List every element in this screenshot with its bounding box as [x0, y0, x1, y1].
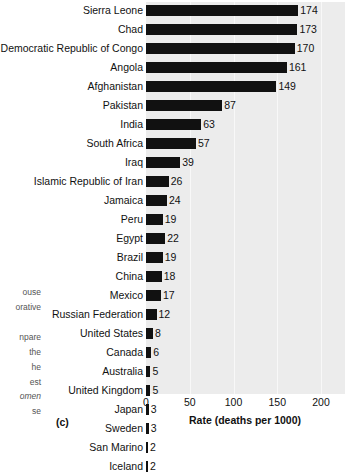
- bar-value-label: 149: [278, 80, 296, 92]
- bar: [146, 119, 201, 130]
- x-tick-label-200: 200: [312, 396, 330, 408]
- bar-row: Canada6: [0, 344, 358, 363]
- category-label: Peru: [0, 213, 143, 225]
- bar: [146, 138, 196, 149]
- bar-value-label: 19: [165, 213, 177, 225]
- bar: [146, 62, 287, 73]
- bar-value-label: 2: [150, 460, 156, 472]
- bar-row: Angola161: [0, 59, 358, 78]
- bar: [146, 176, 169, 187]
- category-label: Sierra Leone: [0, 4, 143, 16]
- category-label: Islamic Republic of Iran: [0, 175, 143, 187]
- bar-value-label: 18: [164, 270, 176, 282]
- category-label: Angola: [0, 61, 143, 73]
- bar-value-label: 24: [169, 194, 181, 206]
- bar-row: Chad173: [0, 21, 358, 40]
- category-label: South Africa: [0, 137, 143, 149]
- bar-row: San Marino2: [0, 439, 358, 458]
- bar: [146, 290, 161, 301]
- x-axis-title: Rate (deaths per 1000): [189, 414, 301, 426]
- bar-value-label: 174: [300, 4, 318, 16]
- bar-value-label: 173: [299, 23, 317, 35]
- bar: [146, 81, 276, 92]
- bar-row: China18: [0, 268, 358, 287]
- bar: [146, 5, 298, 16]
- category-label: Pakistan: [0, 99, 143, 111]
- panel-label: (c): [56, 416, 69, 428]
- bar-value-label: 63: [203, 118, 215, 130]
- bar: [146, 100, 222, 111]
- category-label: Mexico: [0, 289, 143, 301]
- bar-row: Islamic Republic of Iran26: [0, 173, 358, 192]
- bar-value-label: 8: [155, 327, 161, 339]
- bar-row: Australia5: [0, 363, 358, 382]
- bar: [146, 328, 153, 339]
- category-label: Afghanistan: [0, 80, 143, 92]
- bar-row: Brazil19: [0, 249, 358, 268]
- bar: [146, 157, 180, 168]
- bar-row: Democratic Republic of Congo170: [0, 40, 358, 59]
- x-tick-label-50: 50: [184, 396, 196, 408]
- bar-value-label: 39: [182, 156, 194, 168]
- bar-value-label: 12: [159, 308, 171, 320]
- bar-value-label: 170: [297, 42, 315, 54]
- bar: [146, 347, 151, 358]
- bar: [146, 271, 162, 282]
- category-label: Jamaica: [0, 194, 143, 206]
- bar: [146, 24, 297, 35]
- x-axis: Rate (deaths per 1000) 050100150200: [0, 394, 358, 434]
- bar-row: Jamaica24: [0, 192, 358, 211]
- bar-row: Mexico17: [0, 287, 358, 306]
- bar-value-label: 17: [163, 289, 175, 301]
- bar-value-label: 5: [152, 365, 158, 377]
- category-label: Democratic Republic of Congo: [0, 42, 143, 54]
- bar-value-label: 161: [289, 61, 307, 73]
- bar-value-label: 22: [167, 232, 179, 244]
- category-label: Russian Federation: [0, 308, 143, 320]
- bar: [146, 461, 148, 472]
- category-label: United States: [0, 327, 143, 339]
- bar-row: Egypt22: [0, 230, 358, 249]
- bar: [146, 366, 150, 377]
- bar-value-label: 2: [150, 441, 156, 453]
- bar-row: United States8: [0, 325, 358, 344]
- category-label: Iceland: [0, 460, 143, 472]
- bar: [146, 442, 148, 453]
- category-label: Egypt: [0, 232, 143, 244]
- bar-row: Afghanistan149: [0, 78, 358, 97]
- bar-value-label: 26: [171, 175, 183, 187]
- bar-row: Peru19: [0, 211, 358, 230]
- category-label: India: [0, 118, 143, 130]
- bar-value-label: 19: [165, 251, 177, 263]
- bar: [146, 43, 295, 54]
- bar-value-label: 6: [153, 346, 159, 358]
- bar: [146, 214, 163, 225]
- category-label: Canada: [0, 346, 143, 358]
- bar: [146, 195, 167, 206]
- bar-row: South Africa57: [0, 135, 358, 154]
- bar: [146, 233, 165, 244]
- bar-row: Sierra Leone174: [0, 2, 358, 21]
- x-tick-label-100: 100: [225, 396, 243, 408]
- bar-row: Russian Federation12: [0, 306, 358, 325]
- category-label: Australia: [0, 365, 143, 377]
- category-label: Brazil: [0, 251, 143, 263]
- category-label: Chad: [0, 23, 143, 35]
- category-label: China: [0, 270, 143, 282]
- bar-row: Pakistan87: [0, 97, 358, 116]
- category-label: San Marino: [0, 441, 143, 453]
- bar-row: India63: [0, 116, 358, 135]
- bar: [146, 252, 163, 263]
- category-label: Iraq: [0, 156, 143, 168]
- bar-value-label: 57: [198, 137, 210, 149]
- bar-row: Iraq39: [0, 154, 358, 173]
- bar: [146, 309, 157, 320]
- x-tick-label-150: 150: [268, 396, 286, 408]
- bar-row: Iceland2: [0, 458, 358, 476]
- x-tick-label-0: 0: [143, 396, 149, 408]
- bar-value-label: 87: [224, 99, 236, 111]
